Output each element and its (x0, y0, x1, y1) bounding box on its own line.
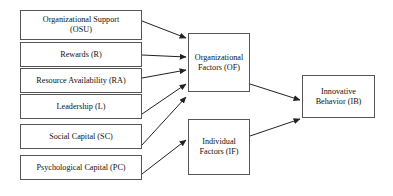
node-rewards-label: Rewards (R) (57, 50, 105, 60)
edge-of-to-ib (250, 84, 300, 100)
node-resource-availability[interactable]: Resource Availability (RA) (20, 68, 142, 93)
edge-leadership-to-of (142, 84, 186, 114)
node-innovative-behavior-label: Innovative Behavior (IB) (313, 87, 365, 106)
edge-social-capital-to-if (142, 97, 186, 145)
node-psychological-capital[interactable]: Psychological Capital (PC) (20, 155, 142, 180)
node-leadership-label: Leadership (L) (54, 102, 109, 112)
node-social-capital[interactable]: Social Capital (SC) (20, 124, 142, 149)
node-innovative-behavior[interactable]: Innovative Behavior (IB) (302, 75, 375, 118)
node-organizational-factors[interactable]: Organizational Factors (OF) (188, 33, 250, 92)
node-psychological-capital-label: Psychological Capital (PC) (33, 163, 128, 173)
node-organizational-support-label: Organizational Support (OSU) (40, 15, 122, 34)
diagram-canvas: Organizational Support (OSU) Rewards (R)… (0, 0, 393, 196)
node-organizational-support[interactable]: Organizational Support (OSU) (20, 10, 142, 40)
node-leadership[interactable]: Leadership (L) (20, 94, 142, 119)
edge-psychological-capital-to-if (142, 140, 186, 174)
edge-rewards-to-of (142, 55, 186, 57)
edge-if-to-ib (250, 119, 300, 136)
node-social-capital-label: Social Capital (SC) (46, 132, 116, 142)
node-rewards[interactable]: Rewards (R) (20, 42, 142, 67)
node-resource-availability-label: Resource Availability (RA) (33, 76, 128, 86)
edge-osu-to-of (142, 21, 186, 38)
node-individual-factors[interactable]: Individual Factors (IF) (188, 119, 250, 175)
node-organizational-factors-label: Organizational Factors (OF) (192, 53, 247, 72)
node-individual-factors-label: Individual Factors (IF) (197, 137, 242, 156)
edge-resource-availability-to-of (142, 70, 186, 78)
